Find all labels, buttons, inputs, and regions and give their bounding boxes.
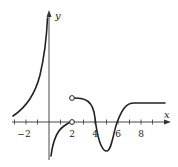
tick-label-2: 2	[69, 129, 75, 139]
y-axis: y	[47, 10, 62, 160]
curve-middle-branch	[51, 122, 70, 156]
curve-left-branch	[13, 18, 48, 116]
open-circle-2-0	[70, 120, 75, 125]
y-axis-label: y	[54, 10, 61, 21]
y-axis-arrow-icon	[47, 10, 52, 17]
open-circle-2-upper	[70, 96, 75, 101]
x-axis-arrow-icon	[164, 120, 171, 125]
tick-label-6: 6	[115, 129, 121, 139]
tick-label-8: 8	[138, 129, 144, 139]
curve-right-branch	[74, 98, 165, 151]
function-graph: x y −2 2 4 6 8	[0, 0, 178, 167]
x-axis: x	[12, 109, 171, 125]
tick-label-neg2: −2	[17, 129, 30, 139]
x-tick-labels: −2 2 4 6 8	[17, 129, 144, 139]
x-axis-label: x	[164, 109, 170, 120]
